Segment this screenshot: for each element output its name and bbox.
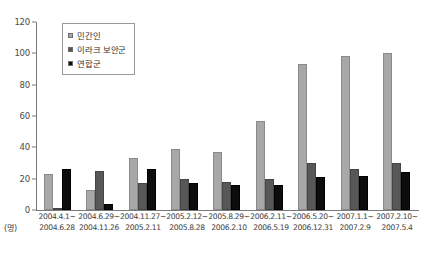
bar xyxy=(316,177,325,210)
bar xyxy=(62,169,71,210)
bar xyxy=(222,182,231,210)
bar xyxy=(213,152,222,210)
bar xyxy=(265,179,274,210)
unit-label: (명) xyxy=(4,222,17,233)
bar xyxy=(53,208,62,210)
x-axis-label: 2006.5.20~2006.12.31 xyxy=(292,212,334,233)
x-axis-label: 2004.4.1~2004.6.28 xyxy=(36,212,78,233)
bar-chart: 020406080100120 2004.4.1~2004.6.282004.6… xyxy=(0,0,426,259)
bar xyxy=(95,171,104,210)
bar xyxy=(359,176,368,210)
bar xyxy=(383,53,392,210)
bar xyxy=(392,163,401,210)
bar xyxy=(274,185,283,210)
bar-group xyxy=(248,22,290,210)
x-axis-line xyxy=(36,210,419,211)
legend-swatch-icon xyxy=(68,33,73,38)
legend-item-civilians: 민간인 xyxy=(68,28,126,42)
x-axis-label: 2005.2.12~2005.8.28 xyxy=(166,212,208,233)
legend-label: 민간인 xyxy=(77,29,100,41)
bar xyxy=(341,56,350,210)
legend-item-coalition-forces: 연합군 xyxy=(68,56,126,70)
bar-group xyxy=(333,22,375,210)
bar-group xyxy=(291,22,333,210)
bar xyxy=(307,163,316,210)
legend-swatch-icon xyxy=(68,47,73,52)
bar xyxy=(171,149,180,210)
x-axis-label: 2004.11.27~2005.2.11 xyxy=(120,212,166,233)
bar xyxy=(231,185,240,210)
bar xyxy=(401,172,410,210)
legend-label: 이라크 보안군 xyxy=(77,43,126,55)
legend-item-iraqi-security-forces: 이라크 보안군 xyxy=(68,42,126,56)
bar-group xyxy=(163,22,205,210)
bar xyxy=(298,64,307,210)
legend: 민간인 이라크 보안군 연합군 xyxy=(62,23,135,75)
bar xyxy=(129,158,138,210)
x-axis-label: 2004.6.29~2004.11.26 xyxy=(78,212,120,233)
bar xyxy=(147,169,156,210)
bar xyxy=(180,179,189,210)
x-axis-label: 2006.2.11~2006.5.19 xyxy=(250,212,292,233)
bar xyxy=(350,169,359,210)
x-axis-label: 2007.1.1~2007.2.9 xyxy=(334,212,376,233)
legend-swatch-icon xyxy=(68,61,73,66)
bar-group xyxy=(376,22,418,210)
bar xyxy=(86,190,95,210)
bar xyxy=(104,204,113,210)
legend-label: 연합군 xyxy=(77,57,100,69)
bar xyxy=(44,174,53,210)
bar xyxy=(189,183,198,210)
x-axis-label: 2005.8.29~2006.2.10 xyxy=(208,212,250,233)
bar-group xyxy=(206,22,248,210)
bar xyxy=(138,183,147,210)
bar xyxy=(256,121,265,210)
x-axis-labels: 2004.4.1~2004.6.282004.6.29~2004.11.2620… xyxy=(36,212,418,233)
x-axis-label: 2007.2.10~2007.5.4 xyxy=(376,212,418,233)
